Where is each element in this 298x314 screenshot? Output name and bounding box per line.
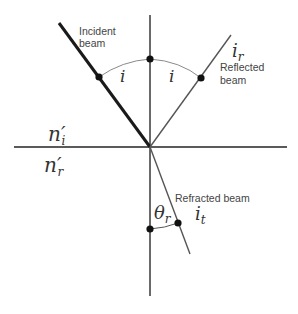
reflected-arc-endpoint <box>197 74 204 81</box>
incident-arc-endpoint <box>95 73 102 80</box>
optics-diagram: Incident beam Reflected beam Refracted b… <box>0 0 298 314</box>
n-upper-sub: i <box>61 134 65 148</box>
n-upper-medium-label: n′i <box>48 122 66 148</box>
n-lower-sub: r <box>57 165 64 179</box>
reflected-beam <box>150 35 231 147</box>
refracted-beam-label: Refracted beam <box>175 192 250 204</box>
incident-beam-label-line1: Incident <box>79 25 116 37</box>
theta-sub: r <box>165 212 172 226</box>
incidence-angle-label: i <box>120 66 125 86</box>
normal-lower-arc-point <box>146 225 153 232</box>
refracted-symbol: it <box>195 203 206 227</box>
incident-beam-label-line2: beam <box>79 37 106 49</box>
reflection-angle-arc <box>150 59 201 78</box>
reflection-angle-label: i <box>169 66 174 86</box>
refracted-symbol-sub: t <box>201 213 206 227</box>
normal-arc-point <box>146 55 153 62</box>
n-lower-medium-label: n′r <box>44 153 64 179</box>
reflected-symbol: ir <box>232 40 245 64</box>
theta-base: θ <box>154 202 165 223</box>
reflected-beam-label-line2: beam <box>220 74 247 86</box>
refracted-arc-endpoint <box>174 219 181 226</box>
theta-r-label: θr <box>154 202 172 226</box>
